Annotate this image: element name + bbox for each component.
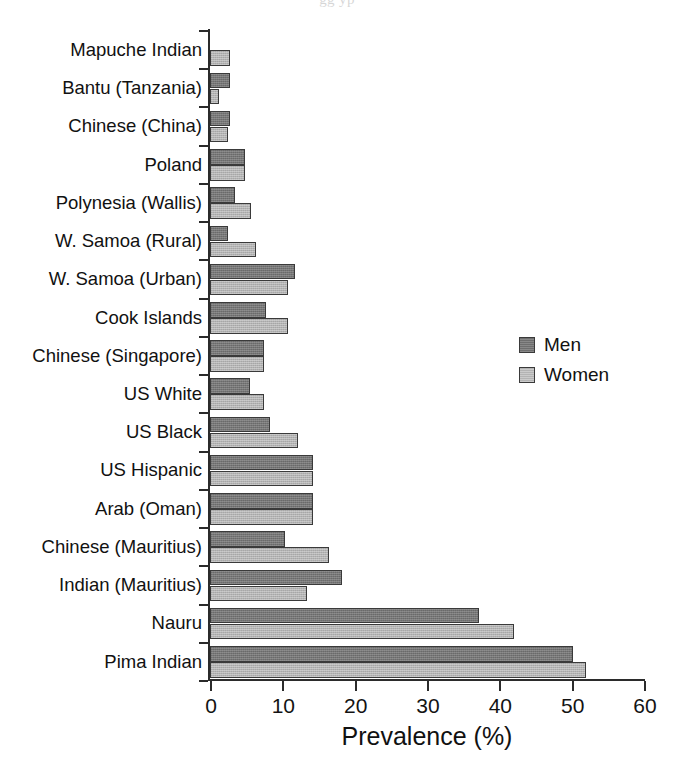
- category-label: US White: [124, 385, 202, 404]
- category-label: Bantu (Tanzania): [62, 79, 202, 98]
- x-axis-tick-label: 10: [272, 694, 295, 718]
- x-axis-tick: [355, 681, 357, 691]
- bar-women: [210, 127, 228, 143]
- bar-women: [210, 471, 313, 487]
- legend-swatch-men-icon: [519, 337, 535, 353]
- x-axis-tick: [572, 681, 574, 691]
- y-axis-tick: [199, 106, 208, 108]
- category-label: Arab (Oman): [95, 500, 202, 519]
- bar-men: [210, 264, 295, 280]
- y-axis-tick: [199, 336, 208, 338]
- bar-women: [210, 318, 288, 334]
- y-axis-tick: [199, 374, 208, 376]
- y-axis-tick: [199, 489, 208, 491]
- x-axis-tick: [499, 681, 501, 691]
- x-axis-tick-label: 60: [633, 694, 656, 718]
- x-axis-tick-label: 50: [561, 694, 584, 718]
- bar-women: [210, 547, 329, 563]
- category-label: Indian (Mauritius): [59, 576, 202, 595]
- x-axis-tick: [427, 681, 429, 691]
- bar-women: [210, 662, 586, 678]
- bar-men: [210, 646, 573, 662]
- bar-women: [210, 356, 264, 372]
- chart-legend: Men Women: [519, 330, 609, 390]
- bar-men: [210, 455, 313, 471]
- x-axis-tick-label: 30: [416, 694, 439, 718]
- x-axis-tick-label: 0: [205, 694, 217, 718]
- bar-chart: 0102030405060 Mapuche IndianBantu (Tanza…: [0, 0, 674, 760]
- bar-men: [210, 149, 245, 165]
- bar-women: [210, 624, 514, 640]
- bar-women: [210, 50, 230, 66]
- bar-men: [210, 608, 479, 624]
- legend-item-men: Men: [519, 330, 609, 360]
- category-label: US Hispanic: [100, 461, 202, 480]
- y-axis-tick: [199, 183, 208, 185]
- category-label: Cook Islands: [95, 309, 202, 328]
- bar-men: [210, 187, 235, 203]
- bar-men: [210, 417, 270, 433]
- legend-label-women: Women: [544, 364, 609, 386]
- bar-men: [210, 493, 313, 509]
- category-label: W. Samoa (Rural): [55, 232, 202, 251]
- bar-men: [210, 302, 266, 318]
- bar-men: [210, 570, 342, 586]
- y-axis-tick: [199, 565, 208, 567]
- bar-women: [210, 586, 307, 602]
- category-label: Chinese (China): [68, 117, 202, 136]
- legend-swatch-women-icon: [519, 367, 535, 383]
- y-axis-tick: [199, 604, 208, 606]
- y-axis-tick: [199, 221, 208, 223]
- bar-men: [210, 111, 230, 127]
- category-label: Nauru: [152, 614, 202, 633]
- y-axis-tick: [199, 30, 208, 32]
- y-axis-tick: [199, 680, 208, 682]
- legend-label-men: Men: [544, 334, 581, 356]
- bar-women: [210, 165, 245, 181]
- x-axis-tick: [282, 681, 284, 691]
- y-axis-tick: [199, 259, 208, 261]
- bar-women: [210, 242, 256, 258]
- y-axis-tick: [199, 451, 208, 453]
- y-axis-tick: [199, 68, 208, 70]
- bar-women: [210, 509, 313, 525]
- bar-men: [210, 226, 228, 242]
- x-axis-title: Prevalence (%): [210, 722, 644, 751]
- x-axis-tick-label: 20: [344, 694, 367, 718]
- y-axis-tick: [199, 642, 208, 644]
- bar-men: [210, 73, 230, 89]
- bar-women: [210, 89, 219, 105]
- bar-men: [210, 531, 285, 547]
- x-axis-tick-label: 40: [489, 694, 512, 718]
- bar-women: [210, 203, 251, 219]
- bar-men: [210, 378, 250, 394]
- category-label: Poland: [144, 156, 202, 175]
- category-label: W. Samoa (Urban): [49, 270, 202, 289]
- y-axis-tick: [199, 527, 208, 529]
- x-axis-tick: [644, 681, 646, 691]
- x-axis-tick: [210, 681, 212, 691]
- category-label: Polynesia (Wallis): [56, 194, 202, 213]
- bar-women: [210, 394, 264, 410]
- category-label: Pima Indian: [104, 653, 202, 672]
- category-label: US Black: [126, 423, 202, 442]
- y-axis-tick: [199, 298, 208, 300]
- legend-item-women: Women: [519, 360, 609, 390]
- category-label: Mapuche Indian: [70, 41, 202, 60]
- bar-women: [210, 433, 298, 449]
- bar-men: [210, 340, 264, 356]
- category-label: Chinese (Mauritius): [42, 538, 202, 557]
- y-axis-tick: [199, 145, 208, 147]
- bar-women: [210, 280, 288, 296]
- category-label: Chinese (Singapore): [32, 347, 202, 366]
- y-axis-tick: [199, 412, 208, 414]
